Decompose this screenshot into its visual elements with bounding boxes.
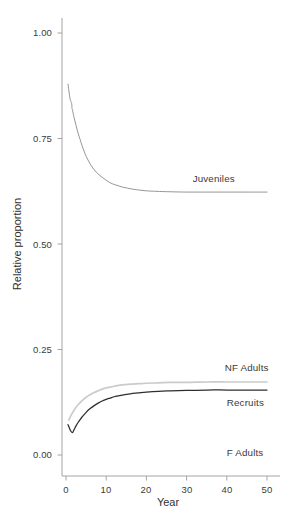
series-label-nf-adults: NF Adults (225, 362, 269, 373)
series-label-f-adults: F Adults (227, 447, 264, 458)
y-axis-ticks (58, 33, 63, 455)
x-axis-ticks (66, 476, 267, 481)
y-axis-title-wrapper: Relative proportion (0, 0, 30, 520)
x-tick-label: 20 (131, 484, 161, 495)
series-label-recruits: Recruits (227, 397, 264, 408)
axes-group (58, 18, 281, 481)
chart-figure: 1.00 0.75 0.50 0.25 0.00 0 10 20 30 40 5… (0, 0, 287, 520)
x-tick-label: 10 (91, 484, 121, 495)
series-label-juveniles: Juveniles (193, 173, 235, 184)
series-line-juveniles (68, 84, 267, 192)
x-tick-label: 0 (51, 484, 81, 495)
plot-canvas (0, 0, 287, 520)
series-lines (68, 84, 267, 433)
x-axis-title: Year (148, 496, 188, 508)
x-tick-label: 30 (172, 484, 202, 495)
y-axis-title: Relative proportion (11, 154, 23, 334)
x-tick-label: 40 (212, 484, 242, 495)
x-tick-label: 50 (252, 484, 282, 495)
